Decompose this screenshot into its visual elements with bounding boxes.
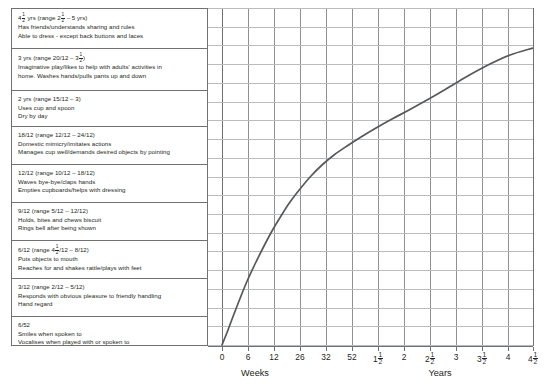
milestone-detail-line: Dry by day <box>18 112 202 121</box>
milestone-detail-line: Able to dress - except back buttons and … <box>18 32 202 41</box>
x-axis-tick-label: 112 <box>373 352 383 366</box>
milestone-age-label: 3/12 (range 2/12 – 5/12) <box>18 283 202 292</box>
milestone-detail-line: Domestic mimicry/imitates actions <box>18 140 202 149</box>
milestone-detail-line: Has friends/understands sharing and rule… <box>18 23 202 32</box>
x-axis-tick-label: 312 <box>477 352 487 366</box>
x-axis-tick-label: 2 <box>402 352 407 363</box>
growth-chart-plot <box>208 8 533 346</box>
x-axis-tick-label: 0 <box>220 352 225 363</box>
x-axis-tick <box>404 347 405 351</box>
x-axis-tick-label: 12 <box>269 352 278 363</box>
milestone-age-label: 412 yrs (range 212 – 5 yrs) <box>18 13 202 23</box>
milestone-detail-line: Imaginative play/likes to help with adul… <box>18 63 202 72</box>
x-axis-tick <box>352 347 353 351</box>
milestone-block-age-4h-yrs: 412 yrs (range 212 – 5 yrs)Has friends/u… <box>12 9 207 49</box>
milestone-detail-line: Rings bell after being shown <box>18 224 202 233</box>
milestone-detail-line: Hand regard <box>18 300 202 309</box>
milestone-block-age-12-12: 12/12 (range 10/12 – 18/12)Waves bye-bye… <box>12 165 207 203</box>
x-axis-tick <box>326 347 327 351</box>
milestone-age-label: 3 yrs (range 20/12 – 312) <box>18 53 202 63</box>
milestone-block-age-6-12: 6/12 (range 412/12 – 8/12)Puts objects t… <box>12 241 207 279</box>
gridline-vertical <box>533 8 534 346</box>
x-axis-tick-label: 26 <box>295 352 304 363</box>
milestone-age-label: 6/52 <box>18 321 202 330</box>
milestone-detail-line: home. Washes hands/pulls pants up and do… <box>18 72 202 81</box>
x-axis-tick-label: 52 <box>347 352 356 363</box>
x-axis-tick-label: 4 <box>506 352 511 363</box>
x-axis-tick <box>248 347 249 351</box>
milestone-detail-line: Smiles when spoken to <box>18 330 202 339</box>
milestone-age-label: 9/12 (range 5/12 – 12/12) <box>18 207 202 216</box>
x-axis-tick-label: 3 <box>454 352 459 363</box>
milestone-detail-line: Holds, bites and chews biscuit <box>18 216 202 225</box>
milestone-detail-line: Responds with obvious pleasure to friend… <box>18 292 202 301</box>
milestone-age-label: 12/12 (range 10/12 – 18/12) <box>18 169 202 178</box>
x-axis-tick <box>222 347 223 351</box>
milestone-block-age-9-12: 9/12 (range 5/12 – 12/12)Holds, bites an… <box>12 203 207 241</box>
x-axis-tick <box>274 347 275 351</box>
milestone-block-age-2-yrs: 2 yrs (range 15/12 – 3)Uses cup and spoo… <box>12 91 207 127</box>
developmental-milestones-figure: 412 yrs (range 212 – 5 yrs)Has friends/u… <box>0 0 550 391</box>
x-axis-tick-label: 6 <box>246 352 251 363</box>
milestone-age-label: 6/12 (range 412/12 – 8/12) <box>18 245 202 255</box>
milestone-detail-line: Uses cup and spoon <box>18 104 202 113</box>
development-curve <box>208 8 533 346</box>
milestone-block-age-3-12: 3/12 (range 2/12 – 5/12)Responds with ob… <box>12 279 207 317</box>
milestone-detail-line: Puts objects to mouth <box>18 255 202 264</box>
milestone-detail-line: Waves bye-bye/claps hands <box>18 178 202 187</box>
x-axis-group-years: Years <box>428 367 451 379</box>
milestone-age-label: 18/12 (range 12/12 – 24/12) <box>18 131 202 140</box>
milestone-detail-line: Vocalises when played with or spoken to <box>18 338 202 347</box>
milestone-detail-line: Empties cupboards/helps with dressing <box>18 186 202 195</box>
x-axis-tick <box>300 347 301 351</box>
milestone-detail-line: Reaches for and shakes rattle/plays with… <box>18 264 202 273</box>
x-axis-group-weeks: Weeks <box>241 367 269 379</box>
milestone-block-age-3-yrs: 3 yrs (range 20/12 – 312)Imaginative pla… <box>12 49 207 91</box>
x-axis-line <box>208 346 533 347</box>
milestone-block-age-6-52: 6/52Smiles when spoken toVocalises when … <box>12 317 207 347</box>
x-axis-tick <box>508 347 509 351</box>
x-axis-tick-label: 212 <box>425 352 435 366</box>
x-axis-tick <box>456 347 457 351</box>
milestone-block-age-18-12: 18/12 (range 12/12 – 24/12)Domestic mimi… <box>12 127 207 165</box>
milestone-age-label: 2 yrs (range 15/12 – 3) <box>18 95 202 104</box>
milestone-list: 412 yrs (range 212 – 5 yrs)Has friends/u… <box>11 8 208 346</box>
x-axis-tick-label: 32 <box>321 352 330 363</box>
milestone-detail-line: Manages cup well/demands desired objects… <box>18 148 202 157</box>
x-axis-tick-label: 412 <box>528 352 538 366</box>
